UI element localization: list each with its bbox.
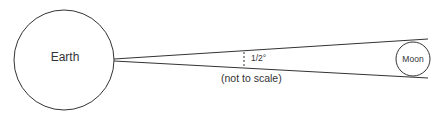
upper-sight-line	[114, 39, 428, 59]
scale-note: (not to scale)	[221, 72, 282, 84]
earth-label: Earth	[40, 50, 90, 64]
moon-label: Moon	[396, 54, 430, 64]
angle-label: 1/2°	[251, 53, 266, 63]
